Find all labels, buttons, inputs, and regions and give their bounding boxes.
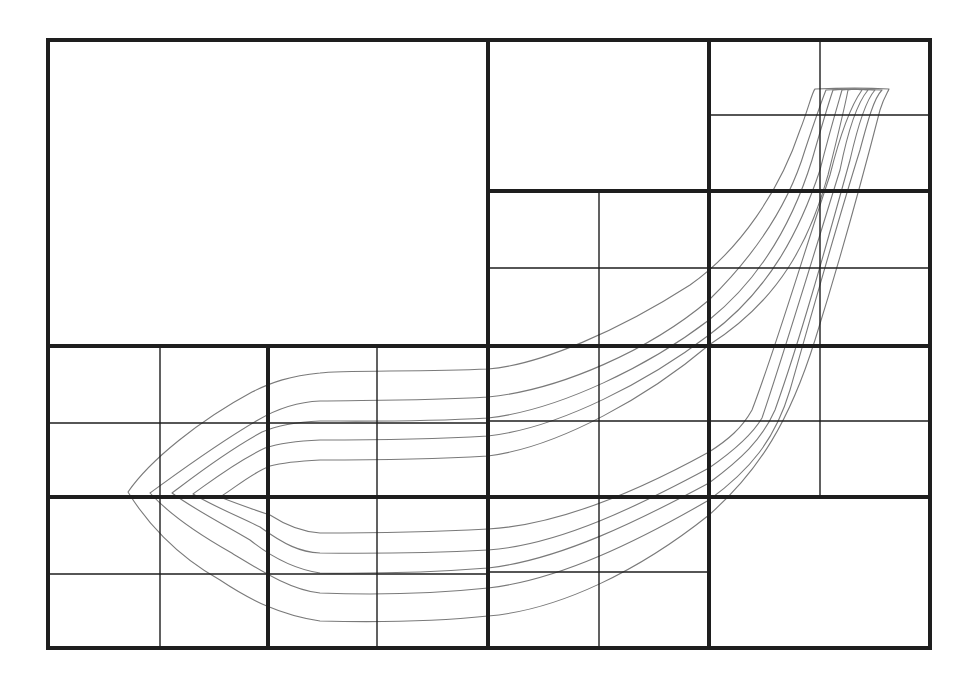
streamline-3 <box>172 89 875 573</box>
streamline-1 <box>128 88 889 621</box>
thick-grid-lines-group <box>48 40 930 648</box>
streamline-2 <box>150 89 882 594</box>
streamline-5 <box>220 89 862 533</box>
streamlines-group <box>128 88 889 621</box>
diagram-canvas <box>0 0 970 682</box>
streamline-4 <box>193 89 868 553</box>
